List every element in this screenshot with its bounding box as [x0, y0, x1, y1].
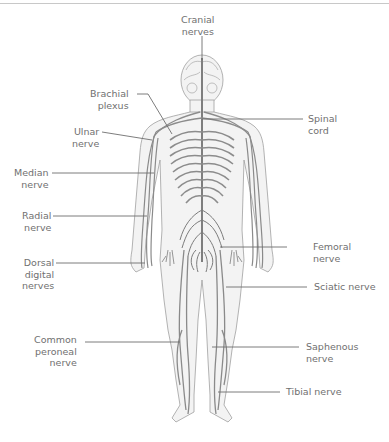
label-cranial-nerves: Cranialnerves	[181, 14, 214, 37]
label-ulnar-nerve: Ulnarnerve	[72, 126, 99, 149]
label-spinal-cord: Spinalcord	[308, 113, 337, 136]
label-tibial-nerve: Tibial nerve	[286, 386, 342, 398]
label-sciatic-nerve: Sciatic nerve	[314, 281, 376, 293]
label-radial-nerve: Radialnerve	[22, 210, 51, 233]
label-brachial-plexus: Brachialplexus	[90, 88, 129, 111]
label-dorsal-digital-nerves: Dorsaldigitalnerves	[22, 257, 54, 292]
label-femoral-nerve: Femoralnerve	[313, 241, 351, 264]
label-median-nerve: Mediannerve	[14, 167, 49, 190]
leader-lines	[0, 0, 389, 442]
label-saphenous-nerve: Saphenousnerve	[306, 341, 359, 364]
label-common-peroneal-nerve: Commonperonealnerve	[34, 334, 77, 369]
